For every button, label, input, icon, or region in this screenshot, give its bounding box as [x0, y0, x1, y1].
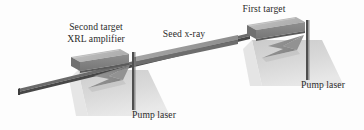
pump-laser-beam-left[interactable] [132, 52, 136, 110]
seed-xray-beam [134, 35, 238, 66]
label-second-target-line2: XRL amplifier [50, 33, 142, 45]
label-second-target-line1: Second target [50, 21, 142, 33]
label-pump-laser-left: Pump laser [112, 109, 196, 121]
label-second-target: Second target XRL amplifier [50, 21, 142, 44]
label-pump-laser-right: Pump laser [286, 79, 360, 91]
figure-container: Second target XRL amplifier Seed x-ray F… [0, 0, 364, 130]
label-seed-xray: Seed x-ray [148, 28, 220, 40]
label-first-target: First target [224, 3, 304, 15]
pump-laser-beam-right[interactable] [306, 20, 310, 80]
